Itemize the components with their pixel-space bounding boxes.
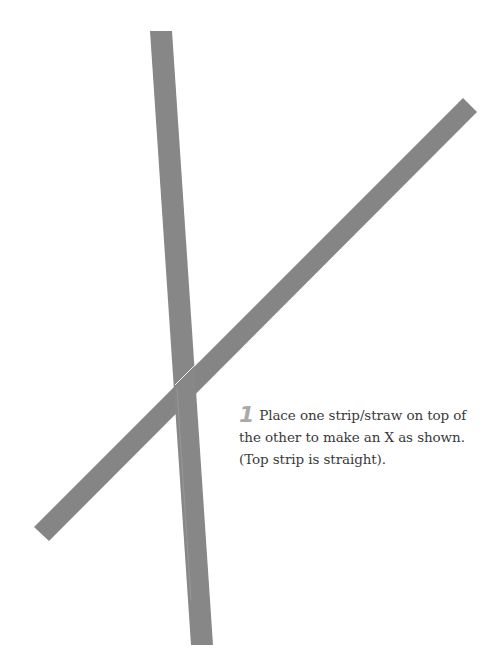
instruction-line-1: Place one strip/straw on top of [259, 407, 466, 423]
top-strip-vertical [150, 31, 213, 645]
step-instruction: 1Place one strip/straw on top of the oth… [239, 404, 479, 470]
step-number: 1 [239, 406, 254, 424]
instruction-line-3: (Top strip is straight). [239, 451, 386, 467]
instruction-line-2: the other to make an X as shown. [239, 429, 465, 445]
bottom-strip-diagonal [34, 98, 477, 541]
x-strips-illustration [0, 0, 494, 671]
